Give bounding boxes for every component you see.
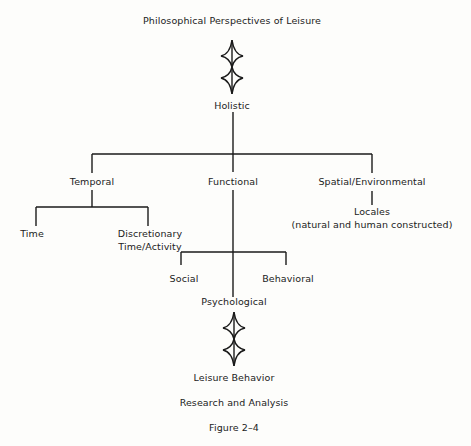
- node-social: Social: [170, 273, 199, 285]
- node-time: Time: [20, 228, 44, 240]
- bidirectional-star-icon-bottom: [223, 312, 245, 366]
- node-behavioral: Behavioral: [262, 273, 314, 285]
- node-discretionary: Discretionary: [118, 228, 183, 240]
- research-analysis-label: Research and Analysis: [180, 397, 289, 409]
- diagram-title: Philosophical Perspectives of Leisure: [143, 15, 321, 27]
- node-time-activity: Time/Activity: [118, 241, 181, 253]
- node-temporal: Temporal: [70, 176, 114, 188]
- figure-caption: Figure 2–4: [209, 422, 259, 434]
- bidirectional-star-icon-top: [221, 40, 243, 94]
- node-locales-note: (natural and human constructed): [291, 219, 452, 231]
- node-locales: Locales: [354, 206, 390, 218]
- node-holistic: Holistic: [214, 100, 250, 112]
- node-psychological: Psychological: [201, 296, 266, 308]
- node-leisure-behavior: Leisure Behavior: [194, 372, 275, 384]
- node-spatial-environmental: Spatial/Environmental: [318, 176, 425, 188]
- node-functional: Functional: [208, 176, 258, 188]
